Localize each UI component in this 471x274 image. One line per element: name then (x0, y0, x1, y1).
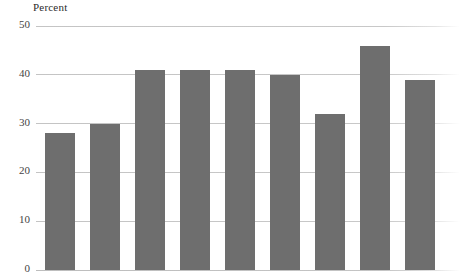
bar (90, 124, 120, 270)
bars-group (0, 0, 471, 274)
plot-area: 01020304050 (0, 0, 471, 274)
bar (45, 133, 75, 270)
bar (315, 114, 345, 270)
bar (135, 70, 165, 270)
bar-chart: Percent 01020304050 (0, 0, 471, 274)
bar (360, 46, 390, 270)
bar (225, 70, 255, 270)
bar (180, 70, 210, 270)
bar (270, 75, 300, 270)
bar (405, 80, 435, 270)
